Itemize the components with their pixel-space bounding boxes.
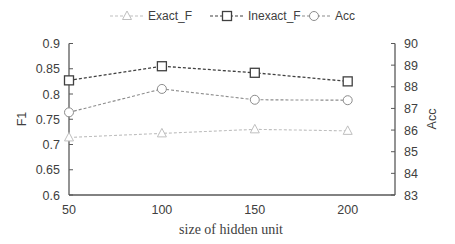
triangle-marker-icon [250,124,259,133]
square-marker-icon [157,62,166,71]
triangle-marker-icon [343,126,352,135]
legend-label: Exact_F [148,9,192,23]
series-layer [65,62,353,141]
y-tick-label-right: 86 [404,124,418,138]
triangle-marker-icon [65,132,74,141]
y-tick-label-left: 0.65 [36,163,60,177]
square-marker-icon [65,76,74,85]
x-tick-label: 150 [244,203,265,217]
circle-marker-icon [343,96,352,105]
axes: 0.90.850.80.750.70.650.69089888786858483… [36,37,418,217]
legend-item-exact-f: Exact_F [110,9,192,23]
legend: Exact_FInexact_FAcc [110,9,355,23]
legend-item-inexact-f: Inexact_F [210,9,301,23]
series-line [69,66,348,81]
x-tick-label: 50 [62,203,76,217]
y-tick-label-left: 0.6 [43,189,60,203]
circle-marker-icon [310,12,319,21]
triangle-marker-icon [123,11,132,20]
circle-marker-icon [65,108,74,117]
legend-item-acc: Acc [297,9,355,23]
circle-marker-icon [250,95,259,104]
series-inexact-f [65,62,353,86]
circle-marker-icon [157,84,166,93]
series-line [69,89,348,112]
square-marker-icon [223,12,232,21]
y-tick-label-right: 90 [404,37,418,51]
y-tick-label-left: 0.85 [36,62,60,76]
y-tick-label-left: 0.9 [43,37,60,51]
y-tick-label-right: 84 [404,167,418,181]
x-tick-label: 100 [151,203,172,217]
series-exact-f [65,124,353,141]
y-tick-label-left: 0.8 [43,88,60,102]
x-tick-label: 200 [337,203,358,217]
y-tick-label-left: 0.7 [43,138,60,152]
y-tick-label-right: 88 [404,80,418,94]
y-tick-label-right: 89 [404,59,418,73]
y-tick-label-right: 85 [404,145,418,159]
y-tick-label-right: 83 [404,189,418,203]
legend-label: Inexact_F [248,9,301,23]
line-chart: Exact_FInexact_FAcc 0.90.850.80.750.70.6… [0,0,455,244]
series-line [69,129,348,137]
y-axis-title-left: F1 [15,112,29,127]
y-tick-label-left: 0.75 [36,113,60,127]
y-tick-label-right: 87 [404,102,418,116]
triangle-marker-icon [157,128,166,137]
square-marker-icon [250,68,259,77]
square-marker-icon [343,77,352,86]
legend-label: Acc [335,9,355,23]
series-acc [65,84,353,116]
y-axis-title-right: Acc [425,109,439,130]
x-axis-title: size of hidden unit [179,222,283,237]
